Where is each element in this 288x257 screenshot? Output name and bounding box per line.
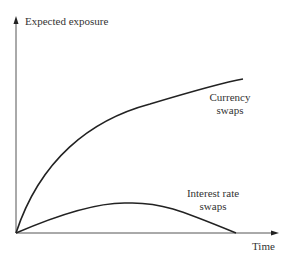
- chart-canvas: [0, 0, 288, 257]
- irs-label-line2: swaps: [168, 200, 258, 213]
- y-axis-arrow-icon: [14, 16, 19, 24]
- interest-rate-swaps-label: Interest rate swaps: [168, 187, 258, 213]
- currency-label-line2: swaps: [200, 104, 260, 117]
- currency-swaps-label: Currency swaps: [200, 91, 260, 117]
- currency-label-line1: Currency: [200, 91, 260, 104]
- irs-label-line1: Interest rate: [168, 187, 258, 200]
- x-axis-arrow-icon: [271, 231, 279, 236]
- y-axis-label: Expected exposure: [25, 15, 108, 28]
- x-axis-label: Time: [252, 240, 275, 253]
